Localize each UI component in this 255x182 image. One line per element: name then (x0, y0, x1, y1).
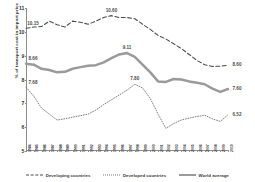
data-point-label: 10.60 (106, 7, 118, 12)
x-tick-label: 1990 (74, 144, 78, 152)
x-tick-mark (220, 150, 221, 152)
x-tick-label: 1995 (113, 144, 117, 152)
x-tick-label: 2001 (160, 144, 164, 152)
y-axis-label: % of transport cost in import price (14, 0, 19, 101)
transport-cost-line-chart: % of transport cost in import price 5678… (0, 0, 255, 182)
x-tick-label: 1986 (43, 144, 47, 152)
series-line-developing-countries (26, 16, 228, 67)
legend-label-developing: Developing countries (46, 173, 91, 178)
data-point-label: 10.15 (27, 20, 39, 25)
legend-label-world: World average (199, 173, 229, 178)
x-tick-label: 1999 (144, 144, 148, 152)
x-tick-mark (104, 150, 105, 152)
y-tick-label: 11 (19, 5, 24, 11)
x-axis-ticks: 1984198519861987198819891990199119921993… (26, 152, 228, 168)
x-tick-mark (205, 150, 206, 152)
x-tick-mark (73, 150, 74, 152)
x-tick-label: 1985 (35, 144, 39, 152)
data-point-label: 6.52 (233, 111, 242, 116)
x-tick-mark (65, 150, 66, 152)
x-tick-mark (127, 150, 128, 152)
x-tick-mark (158, 150, 159, 152)
x-tick-mark (174, 150, 175, 152)
x-tick-mark (150, 150, 151, 152)
x-tick-label: 1988 (59, 144, 63, 152)
y-tick-label: 10 (19, 29, 25, 35)
x-tick-mark (119, 150, 120, 152)
data-point-label: 7.60 (233, 86, 242, 91)
x-tick-mark (212, 150, 213, 152)
x-tick-label: 1984 (28, 144, 32, 152)
dotted-line-swatch-icon (103, 173, 120, 178)
x-tick-label: 2005 (191, 144, 195, 152)
x-tick-mark (189, 150, 190, 152)
legend-label-developed: Developed countries (123, 173, 166, 178)
x-tick-label: 2000 (152, 144, 156, 152)
x-tick-mark (197, 150, 198, 152)
x-tick-label: 2002 (167, 144, 171, 152)
x-tick-label: 2008 (214, 144, 218, 152)
x-tick-mark (42, 150, 43, 152)
x-tick-label: 1993 (98, 144, 102, 152)
x-tick-label: 1987 (51, 144, 55, 152)
x-tick-mark (26, 150, 27, 152)
x-tick-label: 1997 (129, 144, 133, 152)
y-tick-label: 5 (22, 148, 25, 154)
data-point-label: 9.11 (123, 45, 132, 50)
legend-item-developed[interactable]: Developed countries (103, 173, 166, 178)
data-point-label: 8.60 (233, 62, 242, 67)
x-tick-mark (34, 150, 35, 152)
data-point-label: 7.80 (130, 76, 139, 81)
x-tick-mark (135, 150, 136, 152)
x-tick-label: 1989 (66, 144, 70, 152)
x-tick-mark (57, 150, 58, 152)
x-tick-label: 1992 (90, 144, 94, 152)
x-tick-label: 1991 (82, 144, 86, 152)
x-tick-label: 2006 (199, 144, 203, 152)
chart-legend: Developing countries Developed countries… (0, 168, 255, 182)
y-tick-label: 9 (22, 53, 25, 59)
x-tick-label: 1996 (121, 144, 125, 152)
legend-item-world[interactable]: World average (179, 173, 229, 178)
x-tick-label: 1998 (136, 144, 140, 152)
x-tick-mark (96, 150, 97, 152)
x-tick-mark (181, 150, 182, 152)
x-tick-mark (143, 150, 144, 152)
data-point-label: 7.68 (29, 79, 38, 84)
x-tick-mark (111, 150, 112, 152)
x-tick-label: 1994 (105, 144, 109, 152)
x-tick-mark (228, 150, 229, 152)
solid-line-swatch-icon (179, 173, 196, 178)
data-point-label: 8.66 (29, 56, 38, 61)
x-tick-mark (49, 150, 50, 152)
legend-item-developing[interactable]: Developing countries (26, 173, 90, 178)
series-layer (26, 8, 228, 151)
x-tick-mark (88, 150, 89, 152)
x-tick-label: 2007 (206, 144, 210, 152)
y-tick-label: 6 (22, 124, 25, 130)
x-tick-mark (166, 150, 167, 152)
series-line-world-average (26, 53, 228, 92)
y-tick-label: 8 (22, 77, 25, 83)
x-tick-label: 2010 (230, 144, 234, 152)
dashed-line-swatch-icon (26, 173, 43, 178)
x-tick-label: 2009 (222, 144, 226, 152)
x-tick-label: 2004 (183, 144, 187, 152)
x-tick-mark (80, 150, 81, 152)
y-tick-label: 7 (22, 100, 25, 106)
x-tick-label: 2003 (175, 144, 179, 152)
series-line-developed-countries (26, 84, 228, 128)
